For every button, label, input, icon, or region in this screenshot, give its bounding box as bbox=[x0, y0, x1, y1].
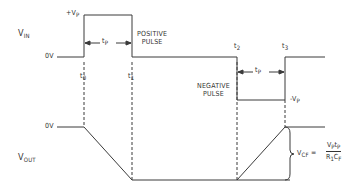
vout-waveform bbox=[57, 127, 325, 180]
tp-label-negative: tP bbox=[255, 67, 261, 75]
t2-label: t2 bbox=[234, 43, 240, 51]
vout-zero-label: 0V bbox=[45, 123, 54, 130]
positive-peak-label: +VP bbox=[66, 10, 79, 18]
vcf-equation-lhs: VCF = bbox=[297, 150, 316, 158]
t0-label: t0 bbox=[80, 73, 86, 81]
vin-waveform bbox=[57, 15, 325, 100]
t1-label: t1 bbox=[128, 73, 134, 81]
integrator-timing-diagram: VIN VOUT 0V 0V +VP -VP tP tP t0 t1 t2 t3… bbox=[0, 0, 360, 189]
negative-peak-label: -VP bbox=[290, 96, 300, 104]
vcf-equation-fraction: VPtP R1CF bbox=[326, 141, 341, 162]
vin-zero-label: 0V bbox=[45, 53, 54, 60]
vcf-brace bbox=[285, 127, 294, 180]
tp-label-positive: tP bbox=[102, 38, 108, 46]
time-marker-lines bbox=[84, 62, 285, 180]
waveform-canvas bbox=[0, 0, 360, 189]
t3-label: t3 bbox=[282, 43, 288, 51]
positive-pulse-label: POSITIVE PULSE bbox=[137, 31, 167, 46]
negative-pulse-label: NEGATIVE PULSE bbox=[197, 83, 230, 98]
vin-label: VIN bbox=[18, 29, 30, 39]
vout-label: VOUT bbox=[18, 153, 36, 163]
